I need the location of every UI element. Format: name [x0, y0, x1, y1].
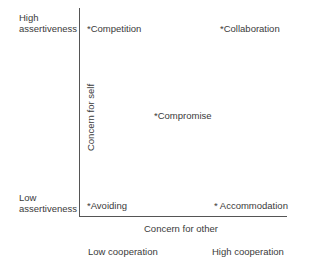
y-axis-label: Concern for self	[85, 68, 96, 168]
high-assertiveness-label-line2: assertiveness	[19, 23, 77, 34]
high-assertiveness-label-line1: High	[19, 12, 39, 23]
style-competition: *Competition	[87, 23, 141, 34]
high-cooperation-label: High cooperation	[212, 246, 284, 257]
x-axis-label: Concern for other	[144, 223, 218, 234]
style-avoiding: *Avoiding	[87, 200, 127, 211]
low-cooperation-label: Low cooperation	[88, 246, 158, 257]
style-compromise: *Compromise	[154, 110, 212, 121]
style-accommodation: * Accommodation	[214, 200, 288, 211]
style-collaboration: *Collaboration	[220, 23, 280, 34]
low-assertiveness-label-line2: assertiveness	[19, 203, 77, 214]
low-assertiveness-label-line1: Low	[19, 192, 36, 203]
y-axis-line	[79, 8, 80, 217]
x-axis-line	[79, 216, 287, 217]
